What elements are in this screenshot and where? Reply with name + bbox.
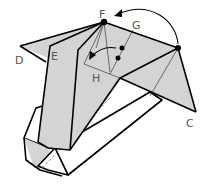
label-f: F (99, 8, 105, 21)
label-g: G (132, 19, 141, 32)
reference-dot-lower (116, 56, 121, 61)
label-d: D (15, 54, 23, 67)
label-c: C (186, 117, 194, 130)
origami-diagram: D E F G H C (0, 0, 207, 187)
reference-dot-upper (120, 46, 125, 51)
point-right-corner (175, 45, 181, 51)
label-e: E (51, 50, 58, 63)
arrowhead-icon (114, 9, 122, 17)
label-h: H (92, 72, 100, 85)
